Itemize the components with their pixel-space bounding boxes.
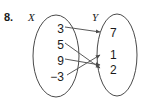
domain-element-3: −3	[40, 70, 64, 84]
mapping-diagram-figure: 8. X Y 3 5 9 −3 7 1 2	[0, 0, 148, 104]
problem-number: 8.	[4, 11, 13, 23]
diagram-canvas	[0, 0, 148, 104]
range-element-1: 1	[110, 48, 124, 62]
domain-element-2: 9	[40, 54, 64, 68]
range-element-2: 2	[110, 63, 124, 77]
domain-element-0: 3	[40, 22, 64, 36]
range-set-label: Y	[92, 11, 98, 23]
domain-set-label: X	[28, 11, 35, 23]
mapping-arrow-9-to-2	[65, 59, 100, 65]
mapping-arrow-3-to-7	[65, 27, 100, 32]
domain-element-1: 5	[40, 38, 64, 52]
range-element-0: 7	[110, 26, 124, 40]
